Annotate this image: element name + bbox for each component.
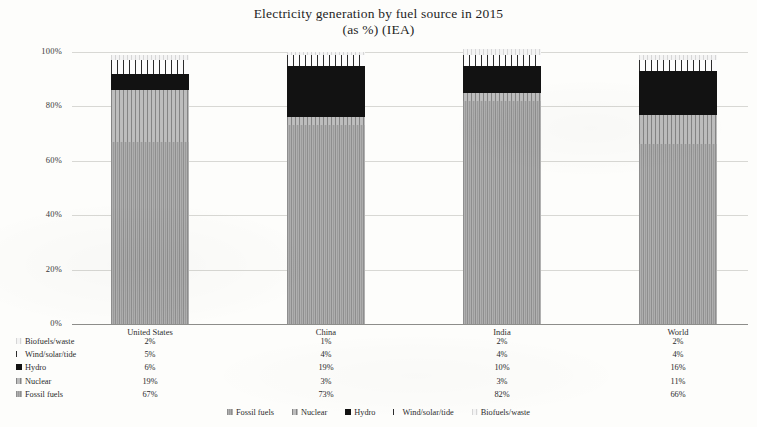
table-cell: 5% (75, 350, 225, 359)
bar-segment-nuclear (463, 93, 541, 101)
legend-item: Biofuels/waste (472, 408, 530, 417)
bar-segment-nuclear (287, 117, 365, 125)
bar-segment-wind-solar-tide (639, 60, 717, 71)
y-axis-tick-label: 80% (20, 100, 62, 110)
legend-swatch-icon (393, 409, 399, 415)
table-cell: 11% (603, 377, 753, 386)
bar-segment-hydro (639, 71, 717, 115)
table-cell: 82% (427, 390, 577, 399)
legend-swatch-icon (472, 409, 478, 415)
stacked-bar (111, 52, 189, 324)
legend-label: Wind/solar/tide (402, 408, 453, 417)
bar-segment-biofuels-waste (111, 55, 189, 60)
y-axis-tick-label: 60% (20, 155, 62, 165)
table-row: Biofuels/waste2%1%2%2% (0, 336, 757, 349)
table-row-label: Hydro (16, 363, 46, 372)
table-cell: 19% (251, 363, 401, 372)
chart-page: Electricity generation by fuel source in… (0, 0, 757, 427)
table-row: Fossil fuels67%73%82%66% (0, 389, 757, 402)
table-cell: 2% (427, 337, 577, 346)
series-swatch-icon (16, 364, 22, 370)
table-cell: 16% (603, 363, 753, 372)
table-row-label-text: Biofuels/waste (25, 337, 74, 346)
stacked-bar (463, 52, 541, 324)
series-swatch-icon (16, 391, 22, 397)
table-row-label-text: Nuclear (25, 377, 51, 386)
bar-segment-fossil-fuels (111, 142, 189, 324)
table-cell: 3% (251, 377, 401, 386)
legend-label: Nuclear (301, 408, 327, 417)
table-row-label: Nuclear (16, 377, 51, 386)
bar-segment-fossil-fuels (463, 101, 541, 324)
y-axis-tick-label: 20% (20, 264, 62, 274)
legend-item: Fossil fuels (227, 408, 274, 417)
table-cell: 3% (427, 377, 577, 386)
table-row: Wind/solar/tide5%4%4%4% (0, 349, 757, 362)
table-cell: 19% (75, 377, 225, 386)
bar-segment-nuclear (639, 115, 717, 145)
table-row-label-text: Fossil fuels (25, 390, 63, 399)
bar-segment-wind-solar-tide (287, 55, 365, 66)
table-cell: 73% (251, 390, 401, 399)
table-cell: 4% (603, 350, 753, 359)
table-row: Nuclear19%3%3%11% (0, 376, 757, 389)
table-cell: 2% (75, 337, 225, 346)
series-swatch-icon (16, 378, 22, 384)
bar-segment-hydro (463, 66, 541, 93)
legend-label: Biofuels/waste (481, 408, 530, 417)
x-axis-line (72, 324, 748, 325)
table-row-label-text: Wind/solar/tide (25, 350, 76, 359)
table-row-label: Wind/solar/tide (16, 350, 76, 359)
y-axis-tick-label: 40% (20, 209, 62, 219)
table-cell: 2% (603, 337, 753, 346)
table-row: Hydro6%19%10%16% (0, 362, 757, 375)
table-cell: 1% (251, 337, 401, 346)
table-row-label-text: Hydro (25, 363, 46, 372)
series-swatch-icon (16, 351, 22, 357)
legend-item: Nuclear (292, 408, 327, 417)
bar-segment-wind-solar-tide (111, 60, 189, 74)
bar-segment-hydro (111, 74, 189, 90)
table-cell: 66% (603, 390, 753, 399)
bar-segment-biofuels-waste (463, 49, 541, 54)
legend-item: Hydro (345, 408, 375, 417)
chart-legend: Fossil fuelsNuclearHydroWind/solar/tideB… (0, 408, 757, 417)
table-cell: 10% (427, 363, 577, 372)
table-cell: 4% (251, 350, 401, 359)
y-axis-tick-label: 0% (20, 318, 62, 328)
table-cell: 4% (427, 350, 577, 359)
table-cell: 6% (75, 363, 225, 372)
legend-label: Fossil fuels (236, 408, 274, 417)
bar-segment-wind-solar-tide (463, 55, 541, 66)
bar-segment-fossil-fuels (639, 144, 717, 324)
bar-segment-nuclear (111, 90, 189, 142)
bar-segment-hydro (287, 66, 365, 118)
legend-label: Hydro (354, 408, 375, 417)
y-axis-tick-label: 100% (20, 46, 62, 56)
stacked-bar (639, 52, 717, 324)
legend-swatch-icon (292, 409, 298, 415)
bar-segment-fossil-fuels (287, 125, 365, 324)
series-swatch-icon (16, 338, 22, 344)
table-cell: 67% (75, 390, 225, 399)
table-row-label: Fossil fuels (16, 390, 63, 399)
bar-segment-biofuels-waste (287, 52, 365, 55)
stacked-bar (287, 52, 365, 324)
legend-item: Wind/solar/tide (393, 408, 453, 417)
legend-swatch-icon (345, 409, 351, 415)
table-row-label: Biofuels/waste (16, 337, 74, 346)
legend-swatch-icon (227, 409, 233, 415)
bar-segment-biofuels-waste (639, 55, 717, 60)
data-table: Biofuels/waste2%1%2%2%Wind/solar/tide5%4… (0, 336, 757, 402)
